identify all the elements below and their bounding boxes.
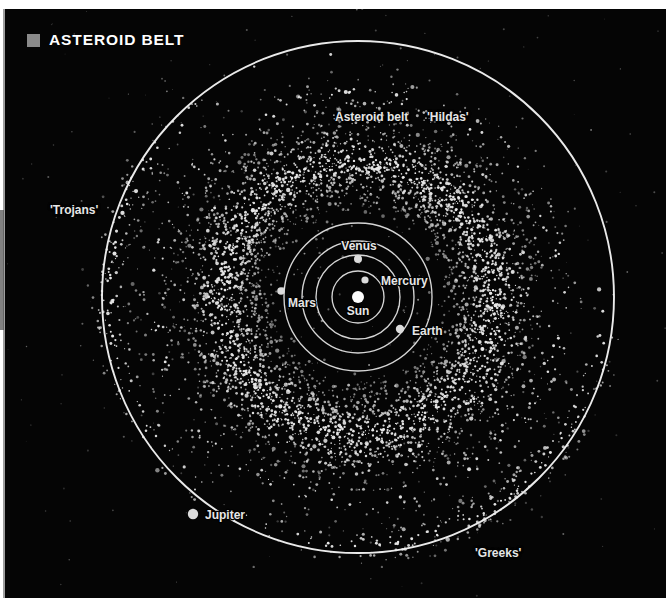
label-mars: Mars	[288, 296, 316, 310]
planet-earth	[396, 325, 404, 333]
label-venus: Venus	[341, 239, 377, 253]
planet-venus	[354, 255, 362, 263]
label-sun: Sun	[347, 304, 370, 318]
figure-title: ASTEROID BELT	[27, 31, 184, 49]
label-asteroid-belt: Asteroid belt	[335, 110, 408, 124]
label-greeks: 'Greeks'	[475, 546, 521, 560]
label-mercury: Mercury	[381, 274, 428, 288]
figure-title-text: ASTEROID BELT	[49, 31, 184, 49]
solar-system-diagram: SunMercuryVenusEarthMarsJupiter	[5, 9, 666, 598]
planet-bodies	[188, 255, 404, 519]
page-top-margin	[0, 0, 666, 9]
label-trojans: 'Trojans'	[50, 203, 98, 217]
label-hildas: 'Hildas'	[427, 110, 469, 124]
diagram-plate: SunMercuryVenusEarthMarsJupiter ASTEROID…	[5, 9, 666, 598]
label-jupiter: Jupiter	[205, 508, 245, 522]
planet-mars	[277, 287, 285, 295]
title-bullet-icon	[27, 34, 40, 47]
planet-mercury	[361, 276, 368, 283]
page-gutter-smudge	[0, 210, 4, 330]
label-earth: Earth	[412, 324, 443, 338]
planet-sun	[352, 291, 364, 303]
planet-jupiter	[188, 509, 198, 519]
asteroid-belt-figure: SunMercuryVenusEarthMarsJupiter ASTEROID…	[0, 0, 666, 598]
asteroid-field	[7, 9, 666, 597]
